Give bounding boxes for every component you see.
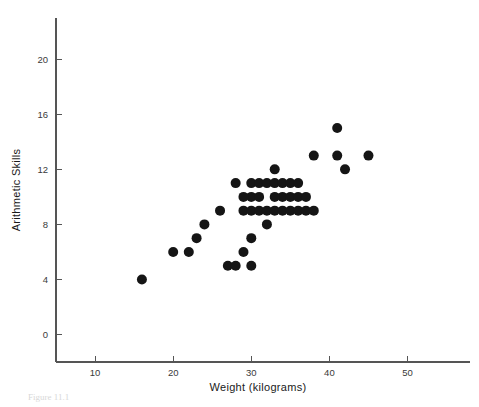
data-point [238,192,248,202]
x-tick-label: 10 [90,367,101,378]
y-tick-label: 4 [43,274,48,285]
y-tick-label: 16 [37,109,48,120]
y-axis-ticks: 048121620 [37,54,62,340]
x-tick-label: 50 [402,367,413,378]
data-point [184,247,194,257]
data-point [363,151,373,161]
data-point [309,151,319,161]
data-point [309,206,319,216]
data-point [262,219,272,229]
scatterplot-figure: 048121620 1020304050 Arithmetic Skills W… [0,0,479,407]
data-point [199,219,209,229]
data-point [293,178,303,188]
data-point [137,274,147,284]
data-point [246,233,256,243]
y-tick-label: 0 [43,329,48,340]
y-tick-label: 20 [37,54,48,65]
axes-group [56,18,470,362]
data-point [231,178,241,188]
x-tick-label: 40 [324,367,335,378]
data-point [192,233,202,243]
data-point [246,261,256,271]
x-tick-label: 30 [246,367,257,378]
data-point [254,192,264,202]
y-tick-label: 12 [37,164,48,175]
x-axis-ticks: 1020304050 [90,356,413,378]
y-tick-label: 8 [43,219,48,230]
data-point [332,151,342,161]
data-point [231,261,241,271]
scatterplot-canvas: 048121620 1020304050 Arithmetic Skills W… [0,0,479,407]
data-point [238,247,248,257]
x-tick-label: 20 [168,367,179,378]
data-point [270,164,280,174]
data-points-group [137,123,374,284]
figure-caption: Figure 11.1 [28,392,328,402]
data-point [332,123,342,133]
y-axis-title: Arithmetic Skills [10,148,22,231]
data-point [301,192,311,202]
data-point [270,192,280,202]
data-point [340,164,350,174]
data-point [168,247,178,257]
data-point [215,206,225,216]
